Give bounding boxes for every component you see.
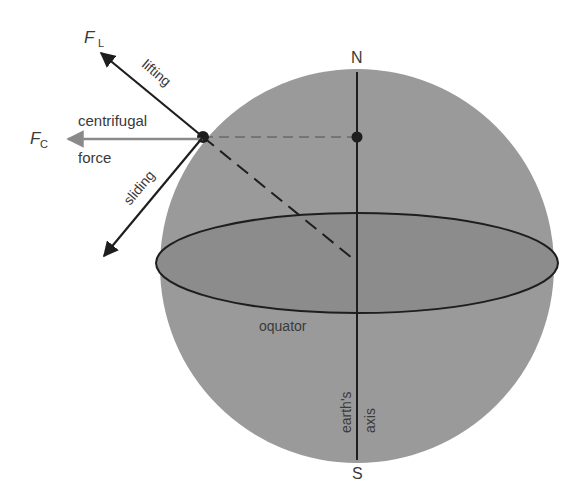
- centrifugal-label: centrifugal: [78, 112, 147, 129]
- lifting-force-symbol: F: [84, 28, 96, 47]
- centrifugal-force-subscript: C: [40, 138, 48, 150]
- earths-label: earth's: [338, 391, 354, 433]
- axis-label: axis: [362, 408, 378, 433]
- sliding-label: sliding: [120, 167, 158, 208]
- south-label: S: [352, 465, 363, 482]
- earth-forces-diagram: F L F C lifting centrifugal force slidin…: [0, 0, 583, 501]
- equator-label: oquator: [259, 318, 307, 334]
- lifting-force-subscript: L: [98, 37, 104, 49]
- force-label: force: [78, 149, 111, 166]
- lifting-label: lifting: [139, 56, 174, 89]
- north-label: N: [351, 49, 363, 66]
- axis-point: [352, 132, 363, 143]
